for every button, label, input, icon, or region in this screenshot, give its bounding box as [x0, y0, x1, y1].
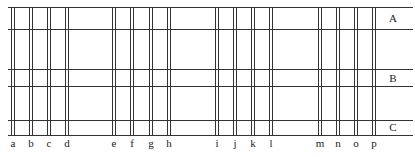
column-label-b: b: [28, 137, 34, 149]
column-f-double-line: [131, 7, 134, 135]
double-line-grid-diagram: ABC abcdefghijklmnop: [0, 0, 415, 157]
column-e-double-line: [113, 7, 116, 135]
column-h-double-line: [168, 7, 171, 135]
column-l-double-line: [270, 7, 273, 135]
column-c-double-line: [48, 7, 51, 135]
column-label-o: o: [353, 137, 359, 149]
column-label-n: n: [335, 137, 341, 149]
column-label-d: d: [64, 137, 70, 149]
column-label-j: j: [232, 137, 236, 149]
column-o-double-line: [355, 7, 358, 135]
column-label-e: e: [112, 137, 117, 149]
column-label-a: a: [11, 137, 16, 149]
column-b-double-line: [30, 7, 33, 135]
column-labels: abcdefghijklmnop: [11, 137, 378, 149]
column-label-l: l: [269, 137, 272, 149]
row-label-a: A: [389, 12, 397, 24]
column-k-double-line: [252, 7, 255, 135]
column-p-double-line: [373, 7, 376, 135]
column-label-f: f: [130, 137, 134, 149]
column-label-k: k: [250, 137, 256, 149]
row-label-c: C: [389, 121, 396, 133]
column-d-double-line: [66, 7, 69, 135]
column-g-double-line: [150, 7, 153, 135]
column-a-double-line: [12, 7, 15, 135]
column-n-double-line: [337, 7, 340, 135]
column-label-m: m: [316, 137, 325, 149]
column-j-double-line: [234, 7, 237, 135]
column-label-g: g: [148, 137, 154, 149]
column-label-c: c: [47, 137, 52, 149]
column-label-h: h: [166, 137, 172, 149]
vertical-double-lines: [12, 7, 376, 135]
row-label-b: B: [389, 72, 396, 84]
column-label-i: i: [215, 137, 218, 149]
column-i-double-line: [216, 7, 219, 135]
column-label-p: p: [371, 137, 377, 149]
column-m-double-line: [319, 7, 322, 135]
row-labels: ABC: [389, 12, 397, 133]
